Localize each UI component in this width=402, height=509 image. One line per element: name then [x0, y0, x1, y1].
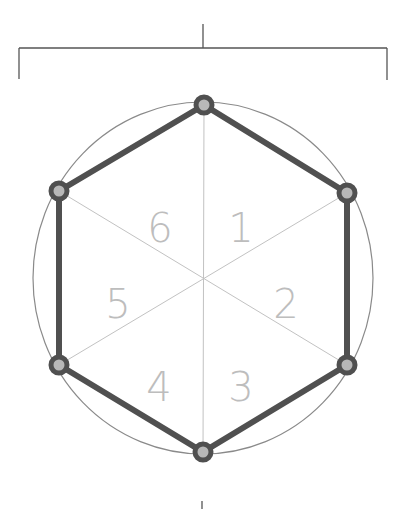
segment-label-1: 1 [228, 205, 253, 251]
vertex [195, 444, 211, 460]
segment-label-6: 6 [147, 205, 172, 251]
hexagon-diagram: 1 2 3 4 5 6 [0, 0, 402, 509]
vertex [51, 183, 67, 199]
vertex [339, 185, 355, 201]
segment-labels: 1 2 3 4 5 6 [105, 205, 298, 410]
segment-label-4: 4 [146, 364, 171, 410]
vertex [51, 357, 67, 373]
vertex [339, 357, 355, 373]
vertex [196, 97, 212, 113]
segment-label-2: 2 [273, 281, 298, 327]
segment-label-3: 3 [228, 364, 253, 410]
segment-label-5: 5 [105, 281, 130, 327]
spokes [59, 105, 347, 452]
top-bracket [19, 24, 387, 80]
